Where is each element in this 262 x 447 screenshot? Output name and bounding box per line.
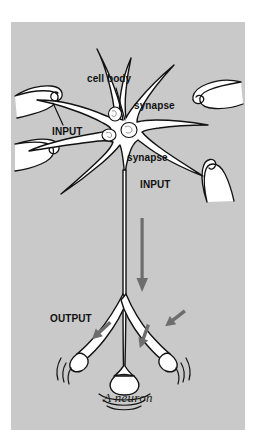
- label-cell-body: cell body: [87, 74, 131, 84]
- axon-arrow-shaft: [141, 218, 144, 280]
- neuron-soma-and-dendrites: [29, 49, 208, 194]
- label-synapse-upper: synapse: [134, 101, 175, 111]
- axon-terminal-bulb-left: [70, 353, 88, 372]
- organelle-upper: [109, 107, 122, 121]
- label-input-right: INPUT: [140, 180, 171, 190]
- signal-arcs-right: [176, 358, 190, 384]
- neuron-figure: cell body synapse synapse INPUT INPUT OU…: [0, 0, 262, 447]
- signal-arcs-left: [57, 358, 71, 384]
- organelle-nucleus: [121, 123, 137, 138]
- figure-caption: A neuron: [11, 390, 245, 406]
- axon-arrow-head: [137, 278, 149, 292]
- organelle-lower: [102, 129, 116, 141]
- label-output: OUTPUT: [50, 314, 92, 324]
- axon-terminal-branch-right: [121, 294, 170, 360]
- incoming-terminal-lower-right: [202, 159, 234, 202]
- axon-terminal-bulb-right: [159, 353, 177, 372]
- neuron-body-group: [29, 49, 208, 395]
- output-arrow-right: [162, 307, 188, 331]
- axon-terminal-branch-left: [77, 294, 127, 360]
- neuron-axon: [114, 170, 134, 376]
- label-synapse-lower: synapse: [127, 153, 168, 163]
- incoming-terminal-upper-right: [193, 80, 243, 108]
- label-input-left: INPUT: [52, 127, 83, 137]
- figure-stage: cell body synapse synapse INPUT INPUT OU…: [11, 22, 245, 430]
- axon-direction-arrow: [137, 218, 149, 292]
